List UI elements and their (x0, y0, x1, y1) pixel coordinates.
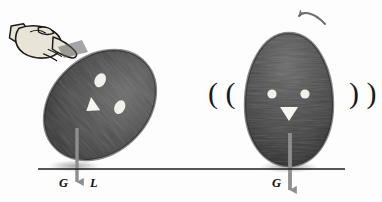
rotation-arrow-icon (299, 13, 325, 24)
right-weight-label: G (272, 177, 281, 190)
wobble-marks-left: ( ( (208, 78, 235, 108)
right-egg-eye-left (267, 89, 276, 98)
left-lever-arm-label: L (90, 177, 98, 190)
wobble-marks-right: ) ) (349, 78, 376, 108)
physics-figure: G L G ( ( ) ) (0, 0, 382, 202)
right-egg-eye-right (300, 89, 309, 98)
figure-canvas (0, 0, 382, 202)
left-egg-ground-shadow (48, 160, 100, 172)
pointing-hand-icon (7, 22, 80, 63)
left-weight-label: G (59, 177, 68, 190)
